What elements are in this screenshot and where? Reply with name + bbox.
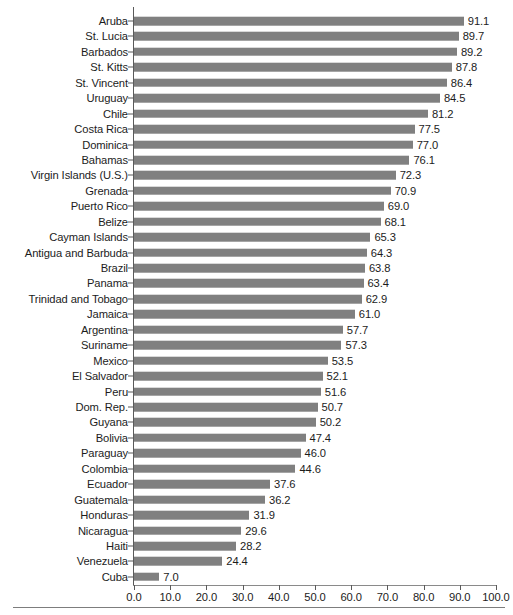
bar-row: Puerto Rico69.0 — [0, 199, 513, 214]
y-axis-tick — [128, 144, 133, 145]
y-axis-tick — [128, 252, 133, 253]
bar-row: Aruba91.1 — [0, 13, 513, 28]
bar — [134, 187, 391, 196]
x-axis-tick-label: 40.0 — [268, 591, 289, 604]
bar-value-label: 31.9 — [253, 509, 274, 521]
bar — [134, 63, 452, 72]
y-axis-tick — [128, 159, 133, 160]
category-label: Mexico — [93, 355, 128, 367]
y-axis-tick — [128, 484, 133, 485]
bar — [134, 480, 270, 489]
category-label: Cuba — [102, 571, 128, 583]
y-axis-tick — [128, 561, 133, 562]
bar-value-label: 7.0 — [163, 571, 178, 583]
y-axis-tick — [128, 268, 133, 269]
bar-value-label: 36.2 — [269, 494, 290, 506]
x-axis-tick — [206, 585, 207, 590]
y-axis-tick — [128, 51, 133, 52]
x-axis-tick — [496, 585, 497, 590]
category-label: Cayman Islands — [49, 231, 128, 243]
y-axis-tick — [128, 329, 133, 330]
bar-value-label: 50.7 — [322, 401, 343, 413]
bar-row: St. Kitts87.8 — [0, 60, 513, 75]
bar-row: Honduras31.9 — [0, 507, 513, 522]
y-axis-tick — [128, 422, 133, 423]
x-axis-tick — [170, 585, 171, 590]
bar-row: Argentina57.7 — [0, 322, 513, 337]
bar-row: Dom. Rep.50.7 — [0, 399, 513, 414]
bar-row: Mexico53.5 — [0, 353, 513, 368]
bar-row: Venezuela24.4 — [0, 554, 513, 569]
bar — [134, 511, 249, 520]
bar-value-label: 89.2 — [461, 46, 482, 58]
bar-row: Grenada70.9 — [0, 183, 513, 198]
plot-area: Aruba91.1St. Lucia89.7Barbados89.2St. Ki… — [0, 0, 513, 615]
bar-row: Suriname57.3 — [0, 338, 513, 353]
bar — [134, 279, 364, 288]
bar-chart: Aruba91.1St. Lucia89.7Barbados89.2St. Ki… — [0, 0, 513, 615]
bar-row: Antigua and Barbuda64.3 — [0, 245, 513, 260]
category-label: Haiti — [106, 540, 128, 552]
bar-row: Jamaica61.0 — [0, 307, 513, 322]
category-label: Costa Rica — [74, 123, 128, 135]
bar — [134, 434, 306, 443]
x-axis-tick — [134, 585, 135, 590]
bar — [134, 372, 323, 381]
y-axis-tick — [128, 499, 133, 500]
bar-row: Guyana50.2 — [0, 415, 513, 430]
bar — [134, 78, 447, 87]
category-label: Guyana — [89, 416, 128, 428]
bar — [134, 217, 381, 226]
category-label: Barbados — [81, 46, 128, 58]
y-axis-tick — [128, 20, 133, 21]
bar-row: Panama63.4 — [0, 276, 513, 291]
bar — [134, 418, 316, 427]
y-axis-tick — [128, 406, 133, 407]
y-axis-tick — [128, 129, 133, 130]
bar-value-label: 57.7 — [347, 324, 368, 336]
category-label: Ecuador — [87, 478, 128, 490]
category-label: Puerto Rico — [71, 200, 128, 212]
bar-value-label: 47.4 — [310, 432, 331, 444]
category-label: Belize — [98, 216, 128, 228]
bar — [134, 233, 370, 242]
y-axis-tick — [128, 360, 133, 361]
y-axis-tick — [128, 221, 133, 222]
bar-value-label: 89.7 — [463, 30, 484, 42]
category-label: St. Kitts — [90, 61, 128, 73]
category-label: Bolivia — [96, 432, 128, 444]
bar-row: Costa Rica77.5 — [0, 121, 513, 136]
y-axis-tick — [128, 468, 133, 469]
category-label: St. Vincent — [75, 77, 128, 89]
bar-value-label: 86.4 — [451, 77, 472, 89]
x-axis-tick — [315, 585, 316, 590]
x-axis-tick — [279, 585, 280, 590]
bar-row: Haiti28.2 — [0, 538, 513, 553]
bar — [134, 326, 343, 335]
bar — [134, 109, 428, 118]
y-axis-tick — [128, 298, 133, 299]
bar-row: Barbados89.2 — [0, 44, 513, 59]
x-axis-tick-label: 10.0 — [160, 591, 181, 604]
bar-row: Paraguay46.0 — [0, 446, 513, 461]
y-axis-tick — [128, 237, 133, 238]
y-axis-tick — [128, 82, 133, 83]
category-label: Aruba — [99, 15, 128, 27]
y-axis-tick — [128, 206, 133, 207]
bar-row: Nicaragua29.6 — [0, 523, 513, 538]
y-axis-tick — [128, 98, 133, 99]
bar-row: Guatemala36.2 — [0, 492, 513, 507]
category-label: Grenada — [85, 185, 128, 197]
bar-value-label: 52.1 — [327, 370, 348, 382]
y-axis-tick — [128, 576, 133, 577]
category-label: Suriname — [81, 339, 128, 351]
y-axis-tick — [128, 376, 133, 377]
bar-value-label: 91.1 — [468, 15, 489, 27]
x-axis-tick — [424, 585, 425, 590]
y-axis-tick — [128, 190, 133, 191]
bar — [134, 171, 396, 180]
y-axis-tick — [128, 530, 133, 531]
bar-row: Belize68.1 — [0, 214, 513, 229]
bar-row: El Salvador52.1 — [0, 368, 513, 383]
bar-value-label: 77.5 — [419, 123, 440, 135]
